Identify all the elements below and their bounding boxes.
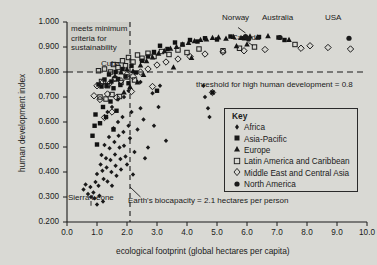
data-point bbox=[167, 52, 171, 56]
data-point bbox=[346, 36, 351, 41]
data-point bbox=[262, 46, 268, 52]
data-point bbox=[175, 56, 181, 62]
data-point bbox=[132, 150, 136, 154]
small-diamond-icon bbox=[232, 122, 244, 134]
filled-triangle-icon bbox=[232, 144, 244, 156]
open-square-icon bbox=[232, 156, 244, 168]
y-tick-label: 0.300 bbox=[25, 193, 59, 201]
data-point bbox=[113, 70, 117, 74]
usa-callout-label: USA bbox=[325, 13, 341, 22]
data-point bbox=[185, 50, 189, 54]
x-tick-label: 4.0 bbox=[174, 229, 200, 237]
data-point bbox=[111, 127, 115, 131]
legend-item-asia-pacific[interactable]: Asia-Pacific bbox=[225, 133, 357, 144]
legend-item-africa[interactable]: Africa bbox=[225, 122, 357, 133]
data-point bbox=[202, 51, 208, 57]
sierra-leone-callout-label: Sierra Leone bbox=[68, 193, 114, 202]
data-point bbox=[171, 64, 177, 69]
data-point bbox=[120, 115, 124, 119]
data-point bbox=[150, 91, 154, 95]
data-point bbox=[135, 53, 139, 57]
norway-callout-label: Norway bbox=[222, 13, 249, 22]
legend-item-north-america[interactable]: North America bbox=[225, 179, 357, 190]
data-point bbox=[128, 136, 132, 140]
sustainability-annotation: meets minimumcriteria forsustainability bbox=[71, 24, 127, 53]
open-diamond-icon bbox=[232, 167, 244, 179]
data-point bbox=[158, 84, 162, 88]
data-point bbox=[111, 86, 115, 90]
data-point bbox=[122, 95, 126, 99]
hdi-threshold-label: threshold for high human development = 0… bbox=[196, 80, 353, 89]
data-point bbox=[138, 106, 142, 110]
data-point bbox=[206, 106, 210, 110]
data-point bbox=[198, 37, 204, 42]
data-point bbox=[102, 143, 106, 147]
data-point bbox=[101, 177, 105, 181]
data-point bbox=[107, 146, 111, 150]
data-point bbox=[108, 99, 112, 103]
x-tick-label: 7.0 bbox=[264, 229, 290, 237]
data-point bbox=[109, 109, 115, 115]
y-tick-label: 0.600 bbox=[25, 118, 59, 126]
data-point bbox=[116, 134, 120, 138]
legend-item-latin-america-and-caribbean[interactable]: Latin America and Caribbean bbox=[225, 156, 357, 167]
data-point bbox=[203, 95, 207, 99]
data-point bbox=[123, 154, 127, 158]
data-point bbox=[307, 43, 313, 49]
legend-item-middle-east-and-central-asia[interactable]: Middle East and Central Asia bbox=[225, 168, 357, 179]
data-point bbox=[234, 43, 240, 48]
data-point bbox=[112, 140, 116, 144]
data-point bbox=[98, 162, 102, 166]
cuba-callout-label: Cuba bbox=[101, 59, 120, 68]
filled-circle-icon bbox=[232, 179, 244, 191]
data-point bbox=[156, 105, 160, 109]
data-point bbox=[81, 187, 85, 191]
data-point bbox=[325, 44, 331, 50]
data-point bbox=[110, 184, 114, 188]
y-axis-title: human development index bbox=[17, 74, 27, 172]
data-point bbox=[105, 179, 109, 183]
data-point bbox=[99, 153, 103, 157]
y-tick-label: 0.500 bbox=[25, 143, 59, 151]
x-tick-label: 6.0 bbox=[234, 229, 260, 237]
data-point bbox=[149, 83, 155, 89]
data-point bbox=[163, 59, 169, 65]
sustainability-annotation-line: criteria for bbox=[71, 34, 127, 44]
data-point bbox=[286, 37, 292, 42]
data-point bbox=[104, 156, 108, 160]
x-tick-label: 0.0 bbox=[54, 229, 80, 237]
canada-callout-label: Canada bbox=[232, 33, 260, 42]
x-tick-label: 2.0 bbox=[114, 229, 140, 237]
legend-item-label: Asia-Pacific bbox=[244, 135, 287, 144]
data-point bbox=[116, 120, 120, 124]
data-point bbox=[131, 172, 135, 176]
data-point bbox=[143, 156, 147, 160]
data-point bbox=[131, 60, 135, 64]
data-point bbox=[125, 162, 129, 166]
data-point bbox=[122, 144, 126, 148]
legend-item-label: Africa bbox=[244, 123, 265, 132]
data-point bbox=[92, 124, 96, 128]
data-point bbox=[114, 174, 118, 178]
data-point bbox=[216, 34, 222, 39]
data-point bbox=[223, 35, 229, 40]
data-point bbox=[113, 164, 117, 168]
legend-item-label: North America bbox=[244, 180, 296, 189]
sustainability-annotation-line: sustainability bbox=[71, 43, 127, 53]
data-point bbox=[141, 117, 145, 121]
data-point bbox=[101, 105, 105, 109]
data-point bbox=[197, 47, 201, 51]
x-tick-label: 1.0 bbox=[84, 229, 110, 237]
data-point bbox=[145, 66, 151, 72]
legend-item-label: Europe bbox=[244, 146, 270, 155]
data-point bbox=[98, 121, 102, 125]
data-point bbox=[107, 135, 111, 139]
data-point bbox=[91, 93, 97, 99]
legend-item-label: Middle East and Central Asia bbox=[244, 169, 349, 178]
data-point bbox=[117, 145, 121, 149]
legend-item-europe[interactable]: Europe bbox=[225, 145, 357, 156]
x-axis-title: ecological footprint (global hectares pe… bbox=[116, 246, 290, 256]
data-point bbox=[155, 89, 159, 93]
legend-title: Key bbox=[225, 109, 357, 122]
x-tick-label: 8.0 bbox=[294, 229, 320, 237]
